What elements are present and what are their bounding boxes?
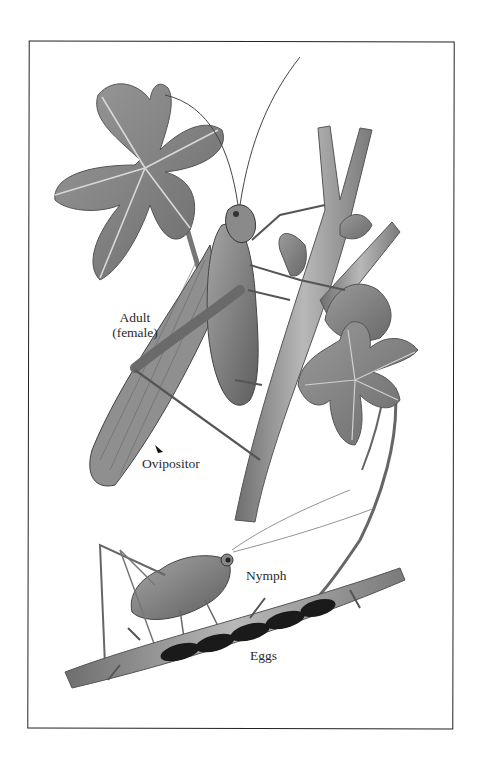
egg-branch xyxy=(65,568,405,688)
katydid-illustration xyxy=(0,0,480,764)
adult-label-text: Adult xyxy=(100,310,170,325)
eggs-label: Eggs xyxy=(250,648,277,663)
large-leaf xyxy=(55,84,224,290)
adult-label: Adult (female) xyxy=(100,310,170,340)
nymph-label: Nymph xyxy=(246,568,287,583)
adult-sublabel-text: (female) xyxy=(100,325,170,340)
ovipositor-label: Ovipositor xyxy=(142,456,200,471)
